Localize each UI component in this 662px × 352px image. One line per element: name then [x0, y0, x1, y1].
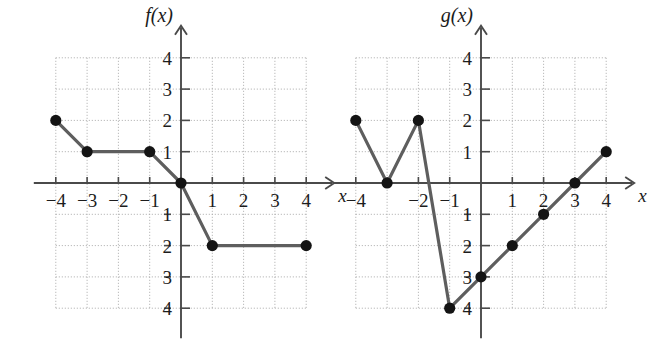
y-tick-label: 4 [163, 48, 173, 69]
data-point [82, 146, 93, 157]
data-point [444, 303, 455, 314]
y-tick-label: 2 [163, 110, 173, 131]
x-tick-label: −2 [408, 190, 428, 211]
y-tick-label: 2 [463, 110, 473, 131]
chart-left: −4−3−2−1123443211234xf(x) [34, 4, 347, 338]
data-point [538, 209, 549, 220]
x-tick-label: −2 [108, 190, 128, 211]
figure-container: −4−3−2−1123443211234xf(x)−4−2−1123443211… [0, 0, 662, 352]
function-label: f(x) [145, 4, 173, 27]
x-tick-label: 1 [508, 190, 518, 211]
data-point [301, 240, 312, 251]
y-tick-label: 4 [463, 298, 473, 319]
y-tick-label: 2 [163, 236, 173, 257]
y-tick-label: 1 [463, 204, 473, 225]
data-point [350, 115, 361, 126]
x-tick-label: 4 [301, 190, 311, 211]
x-tick-label: 2 [239, 190, 249, 211]
x-tick-label: 4 [601, 190, 611, 211]
y-tick-label: 2 [463, 236, 473, 257]
axes-right [334, 26, 634, 338]
data-point [207, 240, 218, 251]
x-tick-label: −1 [140, 190, 160, 211]
x-tick-label: −1 [440, 190, 460, 211]
x-tick-label: 1 [208, 190, 218, 211]
data-point [601, 146, 612, 157]
data-point [382, 177, 393, 188]
function-label: g(x) [441, 4, 474, 27]
data-point [475, 271, 486, 282]
data-point [507, 240, 518, 251]
y-tick-label: 1 [163, 204, 173, 225]
y-tick-label: 1 [163, 142, 173, 163]
two-graph-figure: −4−3−2−1123443211234xf(x)−4−2−1123443211… [0, 0, 662, 352]
y-tick-label: 3 [163, 79, 173, 100]
y-tick-label: 4 [163, 298, 173, 319]
data-point [569, 177, 580, 188]
data-point [413, 115, 424, 126]
y-tick-label: 3 [463, 79, 473, 100]
y-tick-label: 3 [163, 267, 173, 288]
x-tick-label: 3 [570, 190, 580, 211]
y-tick-label: 1 [463, 142, 473, 163]
y-tick-label: 4 [463, 48, 473, 69]
data-point [175, 177, 186, 188]
x-tick-label: 2 [539, 190, 549, 211]
data-point [50, 115, 61, 126]
x-tick-label: −4 [46, 190, 67, 211]
x-tick-label: 3 [270, 190, 280, 211]
x-axis-label: x [637, 185, 647, 206]
x-tick-label: −3 [77, 190, 97, 211]
chart-right: −4−2−1123443211234xg(x) [334, 4, 647, 338]
data-point [144, 146, 155, 157]
x-tick-label: −4 [346, 190, 367, 211]
y-tick-label: 3 [463, 267, 473, 288]
